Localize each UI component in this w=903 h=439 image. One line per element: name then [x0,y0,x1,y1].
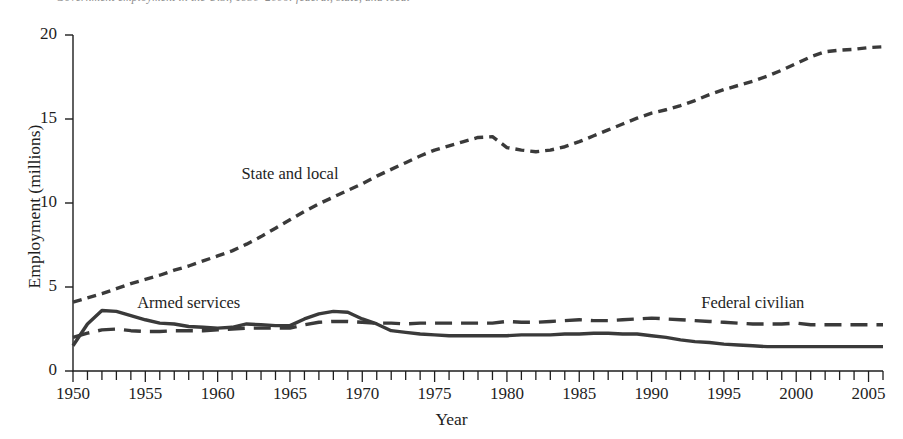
x-tick-1970: 1970 [327,384,397,404]
y-tick-15: 15 [1,108,57,128]
x-tick-1990: 1990 [617,384,687,404]
y-tick-5: 5 [1,276,57,296]
chart-plot-area [0,0,903,439]
y-tick-10: 10 [1,192,57,212]
x-tick-2000: 2000 [761,384,831,404]
x-tick-1965: 1965 [255,384,325,404]
series-label-state-and-local: State and local [241,164,338,184]
series-line-armed-services [73,311,883,347]
x-tick-1960: 1960 [183,384,253,404]
series-label-federal-civilian: Federal civilian [701,293,804,313]
x-tick-1950: 1950 [38,384,108,404]
y-tick-20: 20 [1,24,57,44]
x-axis-title: Year [0,409,903,430]
x-tick-1955: 1955 [110,384,180,404]
x-tick-1975: 1975 [400,384,470,404]
x-tick-1980: 1980 [472,384,542,404]
series-label-armed-services: Armed services [137,293,240,313]
series-line-state-and-local [73,47,883,302]
y-tick-0: 0 [1,360,57,380]
x-tick-1985: 1985 [544,384,614,404]
x-tick-2005: 2005 [834,384,903,404]
chart-figure: Government employment in the U.S., 1950–… [0,0,903,439]
x-tick-1995: 1995 [689,384,759,404]
